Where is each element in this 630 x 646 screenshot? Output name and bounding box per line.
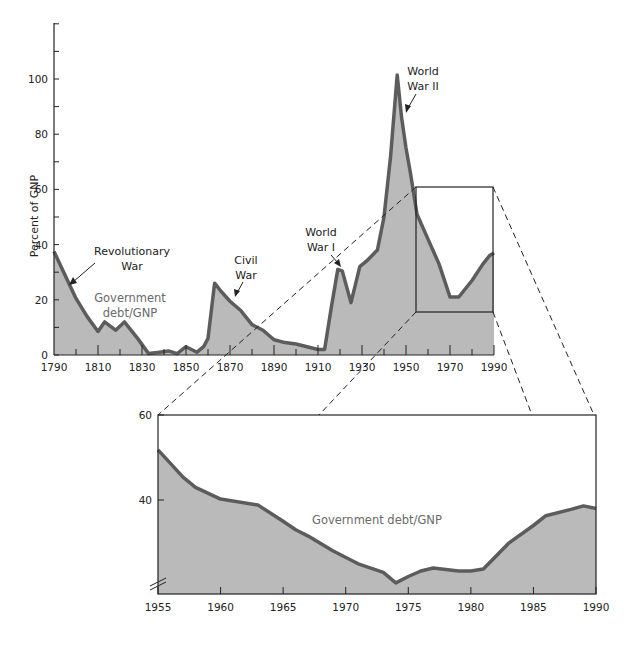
inset-x-tick-label: 1980 <box>457 601 484 613</box>
y-tick-label: 0 <box>41 349 48 361</box>
inset-chart: 406019551960196519701975198019851990 Gov… <box>139 409 610 613</box>
x-tick-label: 1890 <box>261 361 288 373</box>
annotation-world-war-2: World War II <box>405 65 439 113</box>
svg-text:World: World <box>407 65 439 78</box>
y-tick-label: 20 <box>35 294 48 306</box>
inset-y-tick-label: 40 <box>139 494 152 506</box>
annotation-civil-war: Civil War <box>234 254 258 297</box>
inset-x-tick-label: 1975 <box>395 601 422 613</box>
inset-y-tick-label: 60 <box>139 409 152 421</box>
svg-text:War: War <box>235 269 257 282</box>
x-tick-label: 1830 <box>129 361 156 373</box>
series-label-inset: Government debt/GNP <box>312 513 442 527</box>
series-label-main: Government <box>94 291 166 305</box>
svg-text:War I: War I <box>307 241 335 254</box>
inset-x-tick-label: 1960 <box>207 601 234 613</box>
main-chart: 0204060801001790181018301850187018901910… <box>28 23 507 373</box>
annotation-world-war-1: World War I <box>305 226 341 267</box>
svg-text:War: War <box>121 260 143 273</box>
svg-text:War II: War II <box>407 80 438 93</box>
y-tick-label: 80 <box>35 128 48 140</box>
x-tick-label: 1790 <box>41 361 68 373</box>
x-tick-label: 1870 <box>217 361 244 373</box>
svg-text:World: World <box>305 226 337 239</box>
x-tick-label: 1810 <box>85 361 112 373</box>
svg-text:Civil: Civil <box>234 254 257 267</box>
arrow-icon <box>405 104 411 113</box>
x-tick-label: 1910 <box>305 361 332 373</box>
x-tick-label: 1990 <box>481 361 508 373</box>
inset-x-tick-label: 1990 <box>583 601 610 613</box>
x-tick-label: 1850 <box>173 361 200 373</box>
y-tick-label: 100 <box>28 73 48 85</box>
x-tick-label: 1950 <box>393 361 420 373</box>
inset-x-tick-label: 1985 <box>520 601 547 613</box>
inset-x-tick-label: 1955 <box>145 601 172 613</box>
arrow-icon <box>234 289 240 297</box>
inset-x-tick-label: 1965 <box>270 601 297 613</box>
arrow-icon <box>69 277 77 285</box>
x-tick-label: 1930 <box>349 361 376 373</box>
x-tick-label: 1970 <box>437 361 464 373</box>
debt-gnp-figure: 0204060801001790181018301850187018901910… <box>0 0 630 646</box>
svg-text:Revolutionary: Revolutionary <box>94 245 171 258</box>
inset-x-tick-label: 1970 <box>332 601 359 613</box>
series-label-main-2: debt/GNP <box>103 306 158 320</box>
y-axis-label: Percent of GNP <box>28 174 41 257</box>
annotation-revolutionary-war: Revolutionary War <box>69 245 171 285</box>
